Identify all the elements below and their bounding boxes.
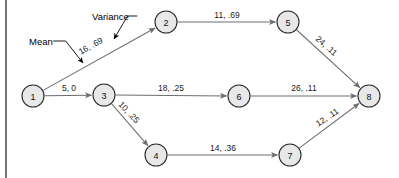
- edge-label-3-6: 18, .25: [158, 83, 184, 93]
- diagram-canvas: 16, .695, 011, .6918, .2510, .2514, .362…: [0, 0, 399, 178]
- edge-label-1-2: 16, .69: [77, 35, 105, 56]
- node-label-2: 2: [163, 18, 168, 28]
- node-label-7: 7: [287, 151, 292, 161]
- node-label-5: 5: [285, 18, 290, 28]
- edge-layer: 16, .695, 011, .6918, .2510, .2514, .362…: [43, 10, 360, 155]
- node-8[interactable]: 8: [358, 85, 380, 107]
- edge-label-2-5: 11, .69: [214, 10, 240, 20]
- edge-label-7-8: 12, .11: [314, 106, 341, 129]
- node-label-1: 1: [30, 92, 35, 102]
- node-3[interactable]: 3: [93, 84, 115, 106]
- annotation-label-mean: Mean: [29, 36, 53, 47]
- node-label-4: 4: [153, 151, 158, 161]
- edge-3-to-6: [115, 95, 226, 96]
- node-5[interactable]: 5: [277, 11, 299, 33]
- node-7[interactable]: 7: [279, 144, 301, 166]
- node-label-8: 8: [366, 92, 371, 102]
- node-1[interactable]: 1: [22, 85, 44, 107]
- edge-label-5-8: 24, .11: [314, 34, 340, 58]
- edge-label-6-8: 26, .11: [291, 83, 317, 93]
- annotation-label-variance: Variance: [92, 11, 129, 22]
- edge-5-to-8: [296, 30, 359, 88]
- edge-label-4-7: 14, .36: [210, 143, 236, 153]
- edge-label-1-3: 5, 0: [62, 83, 76, 93]
- node-2[interactable]: 2: [155, 11, 177, 33]
- edge-1-to-3: [44, 95, 91, 96]
- node-6[interactable]: 6: [228, 85, 250, 107]
- edge-label-3-4: 10, .25: [117, 99, 142, 125]
- network-diagram: 16, .695, 011, .6918, .2510, .2514, .362…: [0, 0, 399, 178]
- node-label-3: 3: [101, 91, 106, 101]
- node-4[interactable]: 4: [145, 144, 167, 166]
- node-label-6: 6: [236, 92, 241, 102]
